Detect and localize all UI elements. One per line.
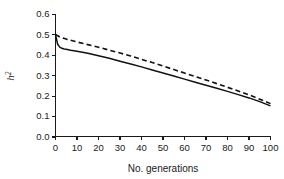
chart-plot-area: 0.00.10.20.30.40.50.6 010203040506070809… [0,0,284,179]
y-tick-label: 0.5 [36,29,49,40]
y-tick-label: 0.4 [36,49,49,60]
x-tick-label: 30 [115,142,126,153]
x-axis-title: No. generations [128,163,199,174]
y-tick-label: 0.2 [36,90,49,101]
x-tick-label: 90 [244,142,255,153]
y-axis-ticks: 0.00.10.20.30.40.50.6 [36,8,55,142]
x-tick-label: 60 [179,142,190,153]
y-tick-label: 0.0 [36,131,49,142]
y-tick-label: 0.3 [36,70,49,81]
x-tick-label: 40 [136,142,147,153]
x-axis-ticks: 0102030405060708090100 [53,137,279,153]
x-tick-label: 80 [222,142,233,153]
x-tick-label: 70 [201,142,212,153]
series-dashed-line [56,34,271,103]
y-axis-title: h2 [4,71,17,81]
y-axis-title-group: h2 [4,71,17,81]
x-tick-label: 50 [158,142,169,153]
chart-figure: 0.00.10.20.30.40.50.6 010203040506070809… [0,0,284,179]
x-tick-label: 10 [72,142,83,153]
data-series-group [56,34,271,105]
y-tick-label: 0.1 [36,110,49,121]
y-tick-label: 0.6 [36,8,49,19]
axis-lines [55,14,271,137]
x-tick-label: 20 [93,142,104,153]
x-tick-label: 0 [53,142,58,153]
x-tick-label: 100 [263,142,279,153]
